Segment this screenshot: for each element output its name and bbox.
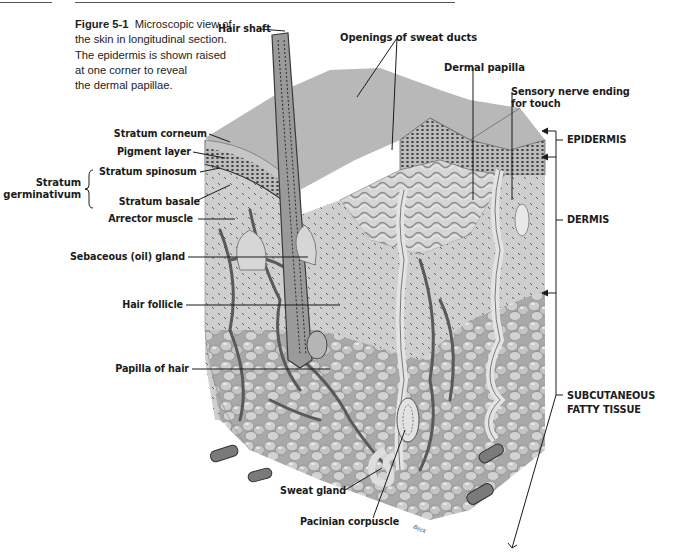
label-hair-follicle: Hair follicle [122,299,183,310]
label-epidermis: EPIDERMIS [567,133,626,147]
sensory-nerve-line1: Sensory nerve ending [511,86,630,97]
label-hair-shaft: Hair shaft [218,23,271,34]
germinativum-line1: Stratum [36,177,81,188]
label-sensory-nerve: Sensory nerve ending for touch [511,86,630,110]
label-pacinian-corpuscle: Pacinian corpuscle [300,516,399,527]
label-dermis: DERMIS [567,213,609,227]
subcutaneous-line1: SUBCUTANEOUS [567,390,655,401]
sensory-nerve-line2: for touch [511,98,561,109]
label-arrector-muscle: Arrector muscle [108,213,193,224]
germinativum-brace [85,170,93,208]
label-sweat-duct-openings: Openings of sweat ducts [340,32,477,43]
label-sebaceous-gland: Sebaceous (oil) gland [70,251,185,262]
label-subcutaneous: SUBCUTANEOUS FATTY TISSUE [567,389,655,417]
label-dermal-papilla: Dermal papilla [444,62,525,73]
label-pigment-layer: Pigment layer [117,146,191,157]
label-papilla-of-hair: Papilla of hair [115,363,189,374]
subcutaneous-line2: FATTY TISSUE [567,404,641,415]
skin-cross-section-illustration [0,0,677,555]
germinativum-line2: germinativum [3,189,81,200]
label-stratum-spinosum: Stratum spinosum [99,166,197,177]
label-stratum-germinativum: Stratum germinativum [3,177,81,201]
label-sweat-gland: Sweat gland [280,485,346,496]
label-stratum-corneum: Stratum corneum [114,128,207,139]
label-stratum-basale: Stratum basale [119,196,200,207]
